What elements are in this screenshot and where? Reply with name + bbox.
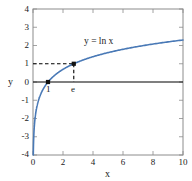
y-tick-label-0: 0 — [13, 78, 29, 87]
x-tick-label-0: 0 — [25, 158, 41, 167]
curve-annotation: y = ln x — [84, 36, 113, 46]
x-tick-label-8: 8 — [145, 158, 161, 167]
y-axis-label: y — [8, 77, 13, 87]
x-tick-label-6: 6 — [115, 158, 131, 167]
y-tick-label-2: 2 — [13, 41, 29, 50]
x-axis-label: x — [105, 169, 110, 179]
x-tick-label-10: 10 — [175, 158, 191, 167]
x-tick-label-4: 4 — [85, 158, 101, 167]
point-marker-e — [72, 62, 76, 66]
y-tick-label-3: 3 — [13, 23, 29, 32]
x-tick-label-2: 2 — [55, 158, 71, 167]
y-tick-label-4: 4 — [13, 5, 29, 14]
y-tick-label-neg1: -1 — [13, 96, 29, 105]
y-tick-label-1: 1 — [13, 59, 29, 68]
point-label-e: e — [71, 85, 75, 94]
y-tick-label-neg2: -2 — [13, 114, 29, 123]
y-tick-label-neg3: -3 — [13, 132, 29, 141]
log-function-chart: 4 3 2 1 0 -1 -2 -3 -4 0 2 4 6 8 10 y x y… — [0, 0, 192, 181]
point-label-one: 1 — [46, 85, 51, 94]
